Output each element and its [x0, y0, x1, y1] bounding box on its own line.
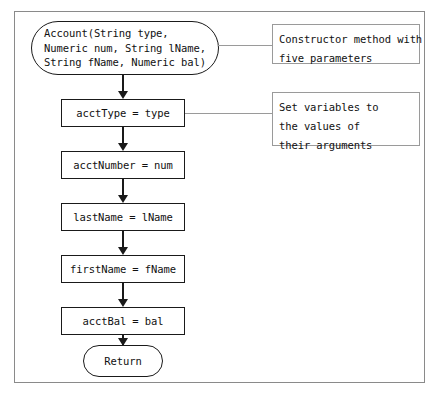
flow-node-step-5-label: acctBal = bal — [83, 314, 164, 328]
flow-node-step-5: acctBal = bal — [61, 307, 185, 335]
flow-node-step-4-label: firstName = fName — [70, 262, 176, 276]
annotation-2: Set variables to the values of their arg… — [272, 92, 420, 146]
arrowhead-step-1-to-step-2 — [118, 143, 128, 151]
flow-node-end: Return — [83, 345, 163, 377]
annotation-leader-1 — [218, 45, 273, 46]
flow-node-step-1: acctType = type — [61, 99, 185, 127]
connector-step-1-to-step-2 — [122, 127, 124, 143]
flow-node-end-label: Return — [104, 354, 141, 369]
annotation-1-text: Constructor method with five parameters — [279, 33, 422, 64]
arrowhead-start-to-step-1 — [118, 91, 128, 99]
connector-step-2-to-step-3 — [122, 179, 124, 195]
flow-node-step-2: acctNumber = num — [61, 151, 185, 179]
flow-node-step-1-label: acctType = type — [76, 106, 169, 120]
connector-step-4-to-step-5 — [122, 283, 124, 299]
annotation-2-text: Set variables to the values of their arg… — [279, 101, 379, 151]
flow-node-step-4: firstName = fName — [61, 255, 185, 283]
arrowhead-step-4-to-step-5 — [118, 299, 128, 307]
annotation-leader-2 — [185, 113, 273, 114]
flow-node-start: Account(String type, Numeric num, String… — [31, 21, 219, 75]
arrowhead-step-2-to-step-3 — [118, 195, 128, 203]
flow-node-step-3: lastName = lName — [61, 203, 185, 231]
flow-node-step-3-label: lastName = lName — [73, 210, 173, 224]
flowchart-figure: Account(String type, Numeric num, String… — [0, 0, 440, 396]
annotation-1: Constructor method with five parameters — [272, 24, 420, 64]
flow-node-step-2-label: acctNumber = num — [73, 158, 173, 172]
connector-step-3-to-step-4 — [122, 231, 124, 247]
flow-node-start-label: Account(String type, Numeric num, String… — [44, 26, 206, 70]
connector-start-to-step-1 — [122, 75, 124, 91]
arrowhead-step-3-to-step-4 — [118, 247, 128, 255]
